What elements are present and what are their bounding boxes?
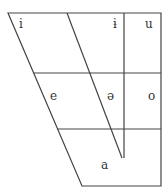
vowel-mid-back: o bbox=[148, 89, 155, 103]
vowel-chart: i ɨ u e ə o a bbox=[0, 0, 168, 193]
vowel-close-back: u bbox=[145, 17, 153, 31]
trapezoid-outline bbox=[8, 13, 161, 186]
vowel-close-central: ɨ bbox=[113, 17, 117, 31]
central-diagonal-line bbox=[67, 13, 122, 158]
vowel-mid-central: ə bbox=[107, 89, 114, 103]
vowel-open-central: a bbox=[101, 158, 108, 172]
vowel-mid-front: e bbox=[50, 89, 57, 103]
vowel-close-front: i bbox=[19, 17, 23, 31]
